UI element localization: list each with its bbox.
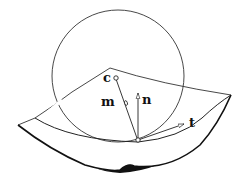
contact-point	[136, 138, 140, 142]
center-point-c	[114, 76, 118, 80]
surface-shadow	[95, 164, 160, 173]
label-c: c	[103, 71, 111, 84]
surface-outer-rim	[18, 95, 231, 170]
m-vector-marker	[124, 100, 128, 105]
m-vector-line	[116, 79, 138, 141]
surface-inner-rim	[35, 95, 231, 142]
label-n: n	[142, 93, 151, 106]
label-t: t	[189, 116, 195, 129]
sphere-outline	[52, 10, 184, 142]
sphere-surface-diagram	[0, 0, 244, 177]
surface-left-edge-break	[48, 100, 62, 112]
label-m: m	[101, 95, 115, 108]
surface-upper-sheet	[18, 68, 231, 125]
